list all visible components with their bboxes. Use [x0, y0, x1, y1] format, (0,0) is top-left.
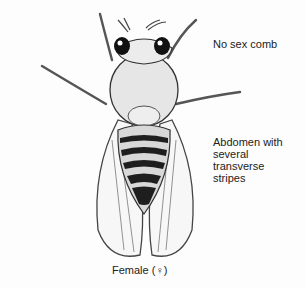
- left-eye: [114, 37, 130, 55]
- label-no-sex-comb: No sex comb: [213, 38, 277, 50]
- label-abdomen-stripes: Abdomen with several transverse stripes: [213, 136, 293, 184]
- caption-female: Female (♀): [112, 264, 167, 276]
- antennae: [118, 18, 166, 32]
- right-eye: [154, 37, 170, 55]
